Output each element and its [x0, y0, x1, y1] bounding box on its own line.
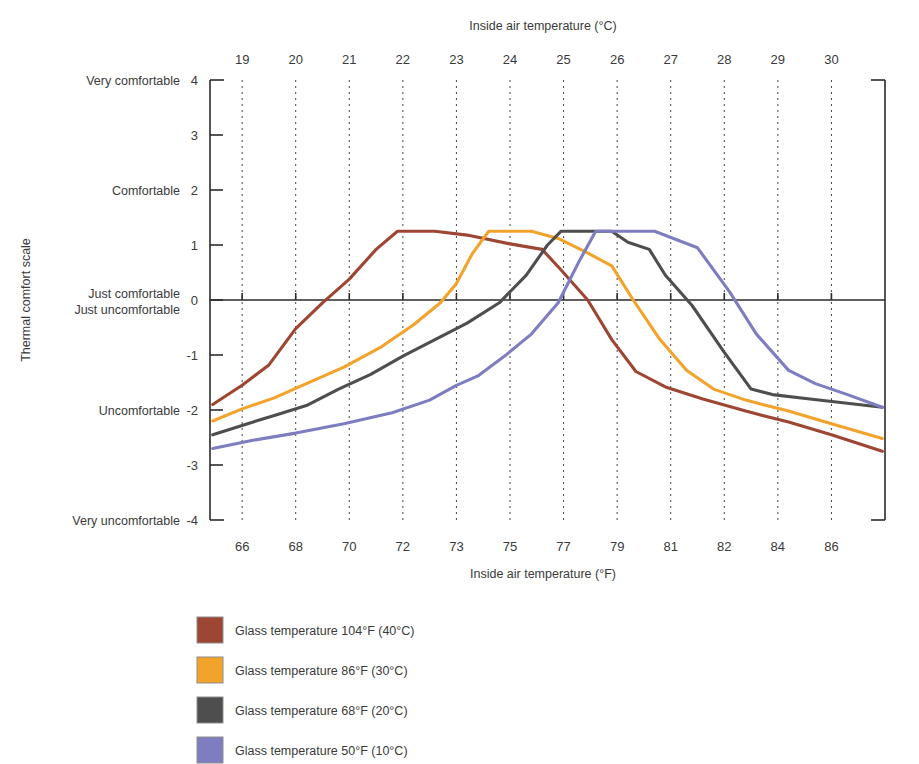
top-axis-title: Inside air temperature (°C)	[469, 19, 616, 33]
top-tick-label: 22	[396, 52, 410, 67]
legend-swatch	[197, 737, 223, 763]
y-tick-word: Just uncomfortable	[74, 303, 180, 317]
y-tick-label: 2	[191, 183, 198, 198]
bottom-axis-title: Inside air temperature (°F)	[470, 567, 616, 581]
top-tick-labels: 192021222324252627282930	[235, 52, 839, 67]
y-tick-label: -2	[186, 403, 198, 418]
top-tick-label: 20	[288, 52, 302, 67]
y-tick-word: Just comfortable	[88, 287, 180, 301]
bottom-tick-label: 84	[771, 539, 785, 554]
y-tick-word: Comfortable	[112, 184, 180, 198]
top-tick-label: 19	[235, 52, 249, 67]
top-tick-label: 26	[610, 52, 624, 67]
legend-swatch	[197, 617, 223, 643]
zero-baseline	[210, 293, 885, 300]
thermal-comfort-chart: Inside air temperature (°C) Inside air t…	[0, 0, 919, 764]
top-tick-label: 27	[663, 52, 677, 67]
y-tick-label: -1	[186, 348, 198, 363]
bottom-tick-label: 81	[663, 539, 677, 554]
legend-swatch	[197, 657, 223, 683]
series-line-2	[213, 231, 883, 438]
y-tick-label: 1	[191, 238, 198, 253]
top-tick-label: 28	[717, 52, 731, 67]
y-tick-word: Uncomfortable	[99, 404, 180, 418]
y-tick-word: Very comfortable	[86, 74, 180, 88]
series-line-1	[213, 231, 883, 451]
bottom-tick-label: 82	[717, 539, 731, 554]
top-tick-label: 21	[342, 52, 356, 67]
top-tick-label: 29	[771, 52, 785, 67]
top-tick-label: 23	[449, 52, 463, 67]
series-line-4	[213, 231, 883, 448]
bottom-tick-label: 86	[824, 539, 838, 554]
y-tick-label: 0	[191, 293, 198, 308]
bottom-tick-labels: 666870727375777981828486	[235, 539, 839, 554]
bottom-tick-label: 66	[235, 539, 249, 554]
legend-label: Glass temperature 86°F (30°C)	[235, 664, 408, 678]
y-tick-word: Very uncomfortable	[72, 514, 180, 528]
bottom-tick-label: 68	[288, 539, 302, 554]
y-tick-label: -4	[186, 513, 198, 528]
top-tick-label: 24	[503, 52, 517, 67]
series-lines	[213, 231, 883, 451]
legend-label: Glass temperature 50°F (10°C)	[235, 744, 408, 758]
bottom-tick-label: 73	[449, 539, 463, 554]
legend: Glass temperature 104°F (40°C)Glass temp…	[197, 617, 415, 763]
top-tick-label: 25	[556, 52, 570, 67]
legend-label: Glass temperature 104°F (40°C)	[235, 624, 415, 638]
y-tick-label: -3	[186, 458, 198, 473]
legend-label: Glass temperature 68°F (20°C)	[235, 704, 408, 718]
y-tick-label: 3	[191, 128, 198, 143]
bottom-tick-label: 79	[610, 539, 624, 554]
bottom-tick-label: 70	[342, 539, 356, 554]
y-tick-label: 4	[191, 73, 198, 88]
bottom-tick-label: 75	[503, 539, 517, 554]
bottom-tick-label: 77	[556, 539, 570, 554]
bottom-tick-label: 72	[396, 539, 410, 554]
y-axis-title: Thermal comfort scale	[19, 238, 33, 362]
top-tick-label: 30	[824, 52, 838, 67]
series-line-3	[213, 231, 883, 434]
legend-swatch	[197, 697, 223, 723]
